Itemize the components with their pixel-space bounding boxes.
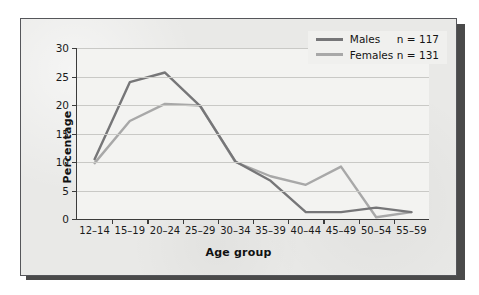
y-axis-tick: [72, 77, 77, 78]
gridline: [77, 105, 429, 106]
y-axis-tick-label: 5: [62, 185, 69, 196]
x-axis-tick: [394, 219, 395, 224]
y-axis-tick-label: 10: [56, 157, 69, 168]
x-axis-tick-label: 55–59: [396, 226, 426, 236]
x-axis-tick: [218, 219, 219, 224]
x-axis-tick-label: 15–19: [115, 226, 145, 236]
plot-area: 05101520253012–1415–1920–2425–2930–3435–…: [76, 48, 429, 220]
y-axis-title: Percentage: [61, 111, 74, 184]
x-axis-title: Age group: [21, 246, 456, 259]
x-axis-tick-label: 12–14: [79, 226, 109, 236]
x-axis-tick-label: 20–24: [150, 226, 180, 236]
legend-entry-males: Malesn = 117: [316, 34, 439, 45]
y-axis-tick: [72, 134, 77, 135]
x-axis-tick-label: 50–54: [361, 226, 391, 236]
legend-sample-size: n = 117: [397, 34, 439, 45]
y-axis-tick: [72, 191, 77, 192]
legend-sample-size: n = 131: [397, 50, 439, 61]
y-axis-tick-label: 15: [56, 128, 69, 139]
gridline: [77, 134, 429, 135]
y-axis-tick: [72, 162, 77, 163]
y-axis-tick: [72, 105, 77, 106]
x-axis-tick-label: 30–34: [220, 226, 250, 236]
x-axis-tick-label: 45–49: [326, 226, 356, 236]
x-axis-tick: [253, 219, 254, 224]
series-line-females: [95, 104, 412, 217]
legend-entry-females: Femalesn = 131: [316, 50, 439, 61]
legend-swatch-males: [316, 38, 343, 41]
chart-panel: Percentage Age group 05101520253012–1415…: [20, 18, 457, 276]
legend-label: Females: [350, 50, 397, 61]
gridline: [77, 191, 429, 192]
x-axis-tick: [359, 219, 360, 224]
y-axis-tick-label: 25: [56, 71, 69, 82]
legend-swatch-females: [316, 53, 343, 56]
y-axis-tick-label: 20: [56, 100, 69, 111]
x-axis-tick: [112, 219, 113, 224]
x-axis-tick-label: 35–39: [255, 226, 285, 236]
chart-legend: Malesn = 117Femalesn = 131: [308, 31, 447, 64]
x-axis-tick: [323, 219, 324, 224]
x-axis-tick: [183, 219, 184, 224]
gridline: [77, 162, 429, 163]
y-axis-tick-label: 30: [56, 43, 69, 54]
x-axis-tick-label: 25–29: [185, 226, 215, 236]
x-axis-tick: [288, 219, 289, 224]
y-axis-tick-label: 0: [62, 214, 69, 225]
y-axis-tick: [72, 219, 77, 220]
gridline: [77, 77, 429, 78]
x-axis-tick-label: 40–44: [291, 226, 321, 236]
x-axis-tick: [147, 219, 148, 224]
figure-root: Percentage Age group 05101520253012–1415…: [0, 0, 479, 295]
y-axis-tick: [72, 48, 77, 49]
legend-label: Males: [350, 34, 397, 45]
